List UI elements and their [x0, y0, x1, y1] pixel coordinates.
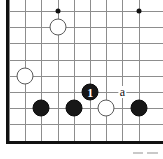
scan-artifact-left [133, 152, 143, 154]
scan-artifacts [0, 0, 163, 159]
go-board[interactable]: 1 a [0, 0, 163, 159]
scan-artifact-right [147, 152, 158, 154]
go-diagram-figure: 1 a [0, 0, 163, 159]
